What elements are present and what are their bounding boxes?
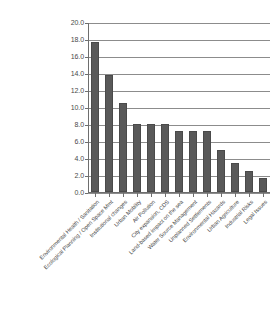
bars [88, 23, 270, 193]
y-tick-label: 4.0 [54, 155, 84, 162]
y-tick-label: 6.0 [54, 138, 84, 145]
bar [189, 131, 198, 192]
bar [231, 163, 240, 192]
x-tick-mark [235, 193, 236, 197]
x-tick-mark [207, 193, 208, 197]
bar [105, 75, 114, 192]
x-tick-mark [95, 193, 96, 197]
y-tick-label: 14.0 [54, 70, 84, 77]
bar [133, 124, 142, 192]
x-tick-mark [179, 193, 180, 197]
y-tick-label: 2.0 [54, 172, 84, 179]
y-tick-label: 8.0 [54, 121, 84, 128]
x-tick-mark [193, 193, 194, 197]
y-tick-label: 10.0 [54, 104, 84, 111]
x-tick-mark [249, 193, 250, 197]
x-axis-label: Ecological Planning / Open Space Mmt [43, 199, 115, 271]
bar [203, 131, 212, 192]
y-axis-tick-labels: 20.018.016.014.012.010.08.06.04.02.00.0 [50, 23, 84, 193]
y-tick-label: 0.0 [54, 189, 84, 196]
y-tick-label: 18.0 [54, 36, 84, 43]
x-tick-mark [137, 193, 138, 197]
y-tick-label: 20.0 [54, 19, 84, 26]
bar-chart: 20.018.016.014.012.010.08.06.04.02.00.0 … [0, 0, 279, 327]
x-axis-label: Environmental Health / Sanitation [38, 199, 100, 261]
y-tick-label: 16.0 [54, 53, 84, 60]
bar [245, 171, 254, 192]
x-tick-mark [151, 193, 152, 197]
bar [147, 124, 156, 192]
x-tick-mark [109, 193, 110, 197]
x-tick-mark [263, 193, 264, 197]
x-tick-mark [123, 193, 124, 197]
bar [119, 103, 128, 192]
bar [161, 124, 170, 192]
bar [217, 150, 226, 192]
x-tick-mark [165, 193, 166, 197]
plot-area [88, 23, 270, 193]
bar [175, 131, 184, 192]
x-tick-mark [221, 193, 222, 197]
bar [259, 178, 268, 192]
bar [91, 42, 100, 192]
y-tick-label: 12.0 [54, 87, 84, 94]
